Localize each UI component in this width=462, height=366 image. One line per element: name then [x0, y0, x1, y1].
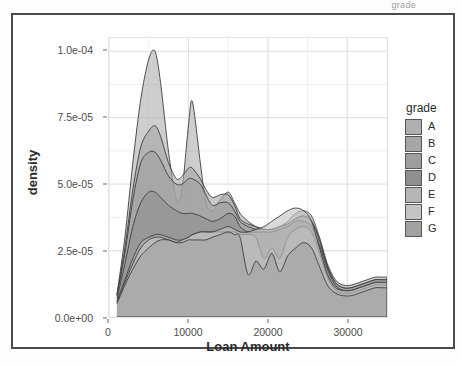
y-tick-label: 7.5e-05: [57, 111, 93, 123]
legend-item-b[interactable]: B: [405, 135, 461, 152]
x-tick-mark: [188, 319, 189, 323]
y-tick-label: 1.0e-04: [57, 44, 93, 56]
legend-item-d[interactable]: D: [405, 169, 461, 186]
y-tick-mark: [103, 184, 107, 185]
legend-item-g[interactable]: G: [405, 220, 461, 237]
legend-item-label: G: [428, 223, 437, 234]
x-tick-mark: [268, 319, 269, 323]
density-plot-svg: [109, 38, 387, 317]
y-tick-mark: [103, 117, 107, 118]
y-tick-label: 5.0e-05: [57, 178, 93, 190]
top-cut-text: grade: [0, 0, 462, 11]
y-tick-mark: [103, 50, 107, 51]
y-tick-mark: [103, 318, 107, 319]
legend: grade ABCDEFG: [405, 101, 461, 257]
x-tick-label: 20000: [253, 326, 282, 338]
y-tick-mark: [103, 251, 107, 252]
legend-swatch-icon: [405, 204, 422, 220]
legend-swatch-icon: [405, 153, 422, 169]
legend-item-label: E: [428, 189, 435, 200]
legend-item-label: F: [428, 206, 435, 217]
legend-items: ABCDEFG: [405, 118, 461, 237]
legend-swatch-icon: [405, 119, 422, 135]
y-tick-label: 2.5e-05: [57, 245, 93, 257]
legend-item-f[interactable]: F: [405, 203, 461, 220]
legend-swatch-icon: [405, 136, 422, 152]
y-axis-title: density: [25, 113, 40, 233]
y-tick-label: 0.0e+00: [55, 312, 93, 324]
legend-item-label: B: [428, 138, 435, 149]
legend-item-e[interactable]: E: [405, 186, 461, 203]
x-tick-mark: [348, 319, 349, 323]
legend-item-label: D: [428, 172, 436, 183]
x-tick-label: 10000: [173, 326, 202, 338]
legend-item-a[interactable]: A: [405, 118, 461, 135]
x-tick-label: 0: [105, 326, 111, 338]
x-axis-title: Loan Amount: [108, 339, 388, 354]
legend-item-c[interactable]: C: [405, 152, 461, 169]
x-tick-label: 30000: [333, 326, 362, 338]
legend-swatch-icon: [405, 187, 422, 203]
figure-page: grade 0.0e+002.5e-055.0e-057.5e-051.0e-0…: [0, 0, 462, 366]
x-tick-mark: [108, 319, 109, 323]
legend-item-label: A: [428, 121, 435, 132]
legend-item-label: C: [428, 155, 436, 166]
legend-title: grade: [406, 101, 461, 115]
legend-swatch-icon: [405, 170, 422, 186]
figure-frame: 0.0e+002.5e-055.0e-057.5e-051.0e-04 dens…: [11, 13, 455, 349]
plot-panel: [108, 37, 388, 318]
legend-swatch-icon: [405, 221, 422, 237]
